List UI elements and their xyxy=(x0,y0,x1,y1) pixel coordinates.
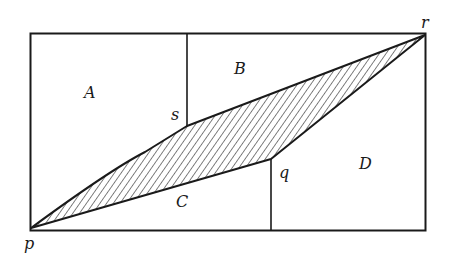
point-label-s: s xyxy=(171,105,179,124)
region-label-c: C xyxy=(176,192,188,211)
region-label-d: D xyxy=(358,154,372,173)
region-label-b: B xyxy=(233,59,246,78)
point-label-r: r xyxy=(421,13,430,32)
point-label-p: p xyxy=(24,234,34,253)
point-label-q: q xyxy=(279,163,289,182)
geometry-diagram: A B C D p q r s xyxy=(0,0,451,265)
hatched-region xyxy=(31,35,425,228)
region-label-a: A xyxy=(82,83,96,102)
